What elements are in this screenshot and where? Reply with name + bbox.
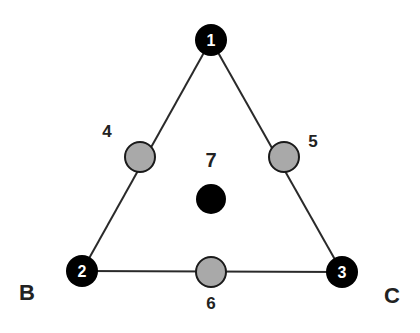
midpoint-node-6: [196, 257, 226, 287]
centroid-label-7: 7: [205, 149, 216, 171]
vertex-label-3: 3: [338, 264, 347, 281]
midpoint-label-4: 4: [102, 122, 112, 141]
midpoint-node-4: [125, 142, 155, 172]
vertex-label-2: 2: [78, 263, 87, 280]
midpoint-label-5: 5: [308, 132, 317, 151]
corner-label-b: B: [19, 280, 35, 305]
centroid-node-7: [196, 184, 226, 214]
midpoint-label-6: 6: [206, 294, 215, 313]
midpoint-node-5: [269, 142, 299, 172]
corner-label-c: C: [384, 283, 400, 308]
triangle-diagram: 1 2 3 4 5 6 7 B C: [0, 0, 420, 333]
vertex-label-1: 1: [207, 32, 216, 49]
